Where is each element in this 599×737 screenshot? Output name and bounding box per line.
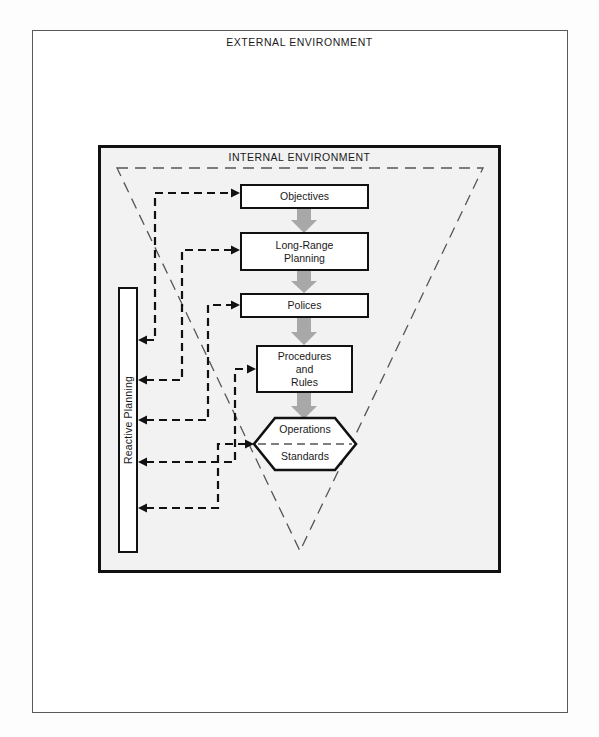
long-range-line-1: Long-Range — [276, 239, 334, 251]
long-range-line-2: Planning — [284, 252, 325, 264]
reactive-planning-label-wrap: Reactive Planning — [118, 287, 138, 553]
procedures-line-2: and — [296, 363, 314, 375]
procedures-line-1: Procedures — [278, 350, 332, 362]
external-environment-title: EXTERNAL ENVIRONMENT — [0, 36, 599, 48]
hexagon-operations-label: Operations — [255, 423, 355, 435]
reactive-planning-label: Reactive Planning — [122, 376, 134, 464]
process-box-objectives[interactable]: Objectives — [240, 184, 369, 209]
diagram-page: EXTERNAL ENVIRONMENT INTERNAL ENVIRONMEN… — [0, 0, 599, 737]
process-box-objectives-label: Objectives — [280, 190, 329, 203]
process-box-long-range-planning[interactable]: Long-Range Planning — [240, 232, 369, 271]
process-box-policies-label: Polices — [288, 299, 322, 312]
process-box-policies[interactable]: Polices — [240, 293, 369, 318]
process-box-long-range-planning-label: Long-Range Planning — [276, 239, 334, 265]
process-box-procedures-and-rules[interactable]: Procedures and Rules — [256, 345, 353, 393]
procedures-line-3: Rules — [291, 376, 318, 388]
process-box-procedures-and-rules-label: Procedures and Rules — [278, 350, 332, 389]
hexagon-standards-label: Standards — [255, 450, 355, 462]
internal-environment-title: INTERNAL ENVIRONMENT — [98, 151, 501, 163]
